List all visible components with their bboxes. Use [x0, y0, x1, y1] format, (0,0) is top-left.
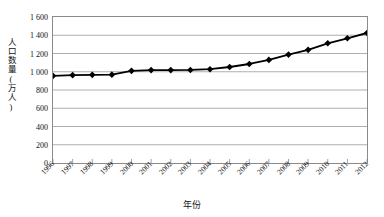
data-point-marker [167, 67, 174, 74]
data-point-marker [344, 35, 351, 42]
x-axis-tick-labels: 1996199719981999200020012002200320042005… [0, 166, 384, 200]
data-point-marker [187, 67, 194, 74]
y-tick-label: 800 [4, 86, 48, 95]
plot-area [52, 16, 368, 164]
data-point-marker [285, 51, 292, 58]
y-tick-label: 200 [4, 140, 48, 149]
data-point-marker [69, 72, 76, 79]
data-point-marker [305, 47, 312, 54]
chart-canvas [53, 17, 367, 163]
data-point-marker [89, 72, 96, 79]
data-point-marker [226, 64, 233, 71]
x-axis-title: 年份 [0, 198, 384, 211]
data-point-marker [53, 73, 56, 80]
data-point-marker [246, 61, 253, 68]
data-point-marker [324, 40, 331, 47]
data-point-marker [128, 68, 135, 75]
gridlines [53, 35, 367, 145]
data-point-marker [148, 67, 155, 74]
y-tick-label: 1 200 [4, 49, 48, 58]
y-tick-label: 1 400 [4, 31, 48, 40]
y-tick-label: 1 600 [4, 13, 48, 22]
y-tick-label: 400 [4, 122, 48, 131]
data-point-marker [109, 71, 116, 78]
population-line-chart: 人口数量(万人) 02004006008001 0001 2001 4001 6… [0, 0, 384, 217]
data-point-marker [266, 57, 273, 64]
y-tick-label: 1 000 [4, 67, 48, 76]
y-tick-label: 600 [4, 104, 48, 113]
